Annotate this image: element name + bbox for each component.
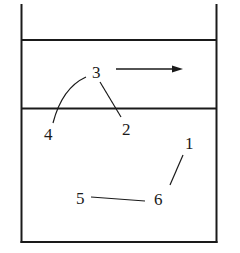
leader-line-1-6	[170, 155, 183, 185]
label-5: 5	[76, 189, 85, 208]
leader-line-3-4	[53, 77, 86, 123]
flow-arrow-icon	[116, 66, 183, 73]
leader-line-5-6	[91, 197, 145, 201]
label-6: 6	[154, 190, 163, 209]
leader-line-3-2	[100, 82, 121, 117]
label-3: 3	[92, 63, 101, 82]
label-4: 4	[44, 125, 53, 144]
label-1: 1	[185, 134, 194, 153]
diagram-canvas: 3 4 2 1 5 6	[0, 0, 240, 253]
label-2: 2	[122, 120, 131, 139]
